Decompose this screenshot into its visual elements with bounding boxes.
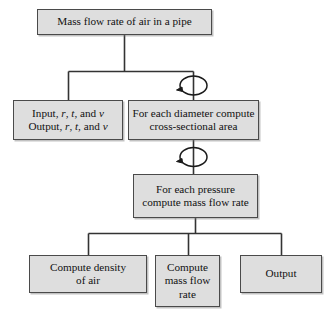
node-pressure[interactable]: For each pressure compute mass flow rate — [133, 174, 258, 218]
node-input-output-label: Input, r, t, and vOutput, r, t, and v — [25, 107, 110, 134]
io-line1-sep2: , and — [74, 107, 99, 119]
node-pressure-label: For each pressure compute mass flow rate — [139, 183, 252, 210]
node-diameter[interactable]: For each diameter compute cross-sectiona… — [128, 100, 259, 140]
loop-arrow-diameter-glyph — [177, 76, 208, 95]
io-line2-var-v: v — [103, 120, 108, 132]
node-diameter-label: For each diameter compute cross-sectiona… — [129, 107, 257, 134]
io-line1-var-v: v — [99, 107, 104, 119]
node-mass-flow-label: Compute mass flow rate — [162, 261, 214, 302]
node-density-label: Compute density of air — [47, 261, 129, 288]
flowchart-canvas: Mass flow rate of air in a pipe Input, r… — [0, 0, 331, 322]
node-output[interactable]: Output — [240, 255, 322, 293]
io-line2-sep2: , and — [78, 120, 103, 132]
node-input-output[interactable]: Input, r, t, and vOutput, r, t, and v — [13, 100, 123, 140]
node-density[interactable]: Compute density of air — [29, 255, 147, 293]
node-output-label: Output — [262, 267, 299, 281]
loop-arrow-pressure-glyph — [177, 148, 208, 167]
io-line2-prefix: Output, — [28, 120, 65, 132]
node-root-label: Mass flow rate of air in a pipe — [54, 15, 195, 29]
node-root[interactable]: Mass flow rate of air in a pipe — [37, 9, 212, 35]
node-mass-flow[interactable]: Compute mass flow rate — [155, 255, 220, 307]
io-line1-prefix: Input, — [32, 107, 61, 119]
